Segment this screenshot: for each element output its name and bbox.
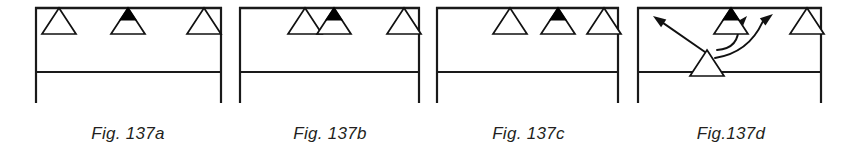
figure-panel-4: Fig.137d [635,0,827,163]
marker-triangle[interactable] [42,8,76,34]
marker-outline [187,8,221,34]
marker-outline [493,8,527,34]
figure-panel-3: Fig. 137c [434,0,623,163]
marker-triangle[interactable] [111,8,145,34]
panel-diagram [33,0,223,112]
marker-triangle[interactable] [493,8,527,34]
marker-triangle[interactable] [541,8,575,34]
panel-caption: Fig. 137a [33,124,223,144]
marker-outline [387,8,421,34]
arrow-up-left [653,16,705,52]
panel-diagram [237,0,423,112]
panel-diagram [635,0,827,112]
marker-outline [690,50,724,76]
marker-outline [587,8,621,34]
marker-highlight-cap [326,8,342,20]
figure-panel-1: Fig. 137a [33,0,223,163]
panel-caption: Fig. 137b [237,124,423,144]
marker-outline [42,8,76,34]
marker-triangle[interactable] [317,8,351,34]
marker-triangle[interactable] [187,8,221,34]
panel-caption: Fig.137d [635,124,827,144]
marker-highlight-cap [550,8,566,20]
panel-caption: Fig. 137c [434,124,623,144]
marker-triangle[interactable] [288,8,322,34]
marker-triangle[interactable] [690,50,724,76]
figure-sheet: Fig. 137aFig. 137bFig. 137cFig.137d [0,0,849,163]
panel-diagram [434,0,623,112]
marker-outline [288,8,322,34]
marker-outline [790,8,824,34]
figure-panel-2: Fig. 137b [237,0,423,163]
marker-triangle[interactable] [587,8,621,34]
marker-highlight-cap [120,8,136,20]
marker-triangle[interactable] [387,8,421,34]
arrow-head [653,16,666,27]
marker-highlight-cap [723,8,739,20]
arrow-shaft [664,23,705,52]
marker-triangle[interactable] [790,8,824,34]
